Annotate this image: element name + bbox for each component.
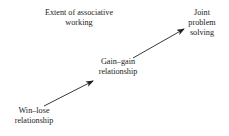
- diagram-canvas: Extent of associative working Joint prob…: [0, 0, 229, 136]
- arrows-layer: [0, 0, 229, 136]
- arrow-gain-to-joint: [133, 29, 184, 58]
- arrow-win-to-gain: [44, 81, 93, 106]
